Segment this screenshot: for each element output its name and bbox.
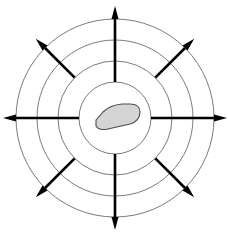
figure-root bbox=[0, 0, 228, 239]
radial-diagram bbox=[0, 0, 228, 239]
